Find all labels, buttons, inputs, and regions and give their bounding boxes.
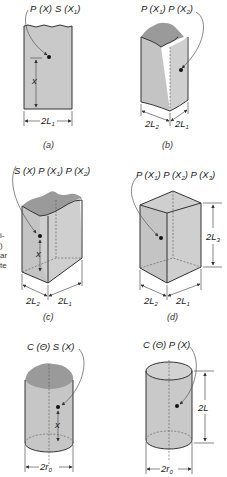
label-b: P (X1) P (X2) [141, 3, 193, 15]
dim-2L2-c: 2L2 [25, 295, 41, 307]
caption-c: (c) [43, 312, 54, 322]
dim-2L2-d: 2L2 [143, 295, 159, 307]
margin-text: i- [0, 231, 5, 240]
dim-2r0-f: 2r0 [160, 463, 173, 475]
dim-2L2-b: 2L2 [144, 118, 160, 130]
caption-b: (b) [162, 140, 173, 150]
panel-c: x 2L2 2L1 S (X) P (X1) P (X2) (c) i- ) a… [0, 165, 90, 322]
label-d: P (X1) P (X2) P (X3) [136, 169, 215, 181]
label-f: C (Θ) P (X) [143, 339, 190, 350]
panel-e: x 2r0 C (Θ) S (X) [25, 341, 84, 473]
caption-d: (d) [167, 312, 178, 322]
svg-text:): ) [0, 241, 3, 250]
dim-2L1-b: 2L1 [174, 118, 189, 130]
panel-a: x 2L1 P(X)S(X1) (a) [24, 3, 80, 150]
label-c: S (X) P (X1) P (X2) [14, 165, 90, 177]
dim-2r0-e: 2r0 [39, 461, 52, 473]
label-a: P(X)S(X1) [30, 3, 80, 15]
panel-b: 2L2 2L1 P (X1) P (X2) (b) [141, 3, 204, 150]
dim-2L1-c: 2L1 [57, 295, 72, 307]
dim-2L3-d: 2L3 [205, 231, 221, 243]
panel-d: 2L3 2L2 2L1 P (X1) P (X2) P (X3) (d) [131, 169, 222, 322]
svg-text:ar: ar [0, 251, 7, 260]
dim-2L1-d: 2L1 [175, 295, 190, 307]
heat-conduction-geometry-diagram: x 2L1 P(X)S(X1) (a) 2L2 2L1 [0, 0, 227, 477]
dim-2L-f: 2L [197, 402, 209, 413]
dim-2L1-a: 2L1 [40, 115, 55, 127]
svg-text:te: te [0, 261, 7, 270]
panel-f: 2L 2r0 C (Θ) P (X) [143, 339, 214, 475]
label-e: C (Θ) S (X) [27, 341, 75, 352]
caption-a: (a) [43, 140, 54, 150]
